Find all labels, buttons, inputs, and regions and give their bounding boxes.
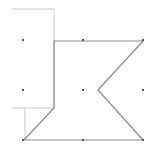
grid-dot <box>82 139 84 141</box>
grid-dot <box>22 139 24 141</box>
grid-dot <box>142 89 144 91</box>
grid-dot <box>22 39 24 41</box>
grid-dot <box>22 89 24 91</box>
grid-dot <box>142 139 144 141</box>
diagram-canvas <box>0 0 149 155</box>
light-outline-shape <box>12 9 54 108</box>
grid-dots <box>22 39 144 141</box>
grid-dot <box>82 39 84 41</box>
grid-dot <box>82 89 84 91</box>
grid-dot <box>142 39 144 41</box>
